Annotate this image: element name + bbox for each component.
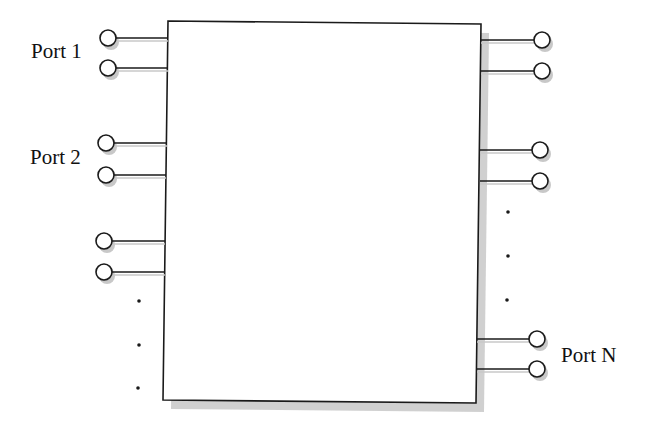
terminal-right-5-1 [477,361,548,381]
ellipsis-dot-right-1 [506,254,510,258]
ellipsis-dot-left-1 [137,343,141,347]
terminal-right-3-0 [481,32,553,52]
terminal-left-1-0 [98,135,167,155]
terminal-circle-icon [532,173,548,189]
ellipsis-dot-left-0 [137,299,141,303]
terminal-circle-icon [98,135,114,151]
terminal-left-2-1 [96,264,165,284]
terminal-circle-icon [98,167,114,183]
terminal-left-0-0 [100,30,168,50]
terminal-right-3-1 [481,63,553,83]
terminal-circle-icon [529,361,545,377]
terminal-circle-icon [529,331,545,347]
network-box [163,21,481,403]
terminal-circle-icon [534,32,550,48]
port-label-n: Port N [561,345,616,366]
ellipsis-dot-left-2 [136,386,140,390]
ellipsis-dot-right-2 [505,298,509,302]
terminal-circle-icon [96,264,112,280]
ellipsis-dot-right-0 [506,210,510,214]
port-label-1: Port 1 [31,41,82,62]
terminal-circle-icon [100,60,116,76]
box-outline [163,21,481,403]
terminal-right-4-0 [480,142,551,162]
port-label-2: Port 2 [30,147,81,168]
terminal-circle-icon [534,63,550,79]
terminal-circle-icon [96,233,112,249]
terminal-left-0-1 [100,60,168,80]
terminal-circle-icon [100,30,116,46]
terminal-circle-icon [532,142,548,158]
n-port-diagram [0,0,652,430]
terminal-left-1-1 [98,167,166,187]
terminal-right-4-1 [480,173,551,193]
terminal-left-2-0 [96,233,165,253]
terminal-right-5-0 [477,331,548,351]
